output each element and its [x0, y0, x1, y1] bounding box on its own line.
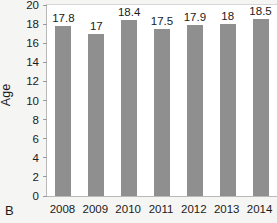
- bar-value-label: 17.5: [151, 15, 173, 27]
- y-tick: 12: [17, 75, 47, 87]
- bar-column: 17.9: [187, 5, 203, 196]
- bar: [253, 19, 269, 196]
- bar-column: 18: [220, 5, 236, 196]
- x-tick-label: 2008: [50, 203, 76, 215]
- x-tick-label: 2013: [214, 203, 240, 215]
- plot-area: 02468101214161820 17.81718.417.517.91818…: [46, 4, 277, 197]
- y-tick-label: 4: [17, 152, 43, 164]
- bar: [154, 29, 170, 196]
- y-tick: 2: [17, 171, 47, 183]
- y-tick-mark: [43, 138, 47, 139]
- bar: [220, 24, 236, 196]
- x-tick-label: 2009: [82, 203, 108, 215]
- y-tick-mark: [43, 43, 47, 44]
- y-tick-label: 12: [17, 75, 43, 87]
- y-tick-label: 8: [17, 114, 43, 126]
- bar-value-label: 17.9: [184, 11, 206, 23]
- y-tick: 0: [17, 190, 47, 202]
- bar-chart: Age B 02468101214161820 17.81718.417.517…: [0, 0, 277, 223]
- y-tick: 18: [17, 18, 47, 30]
- y-tick-mark: [43, 119, 47, 120]
- y-tick: 4: [17, 152, 47, 164]
- bar-value-label: 17: [90, 20, 103, 32]
- y-tick: 14: [17, 56, 47, 68]
- y-tick-mark: [43, 24, 47, 25]
- bar-value-label: 18: [221, 10, 234, 22]
- y-tick-label: 14: [17, 56, 43, 68]
- bar-column: 17.8: [55, 5, 71, 196]
- y-tick-mark: [43, 5, 47, 6]
- y-tick-label: 20: [17, 0, 43, 11]
- y-tick-label: 10: [17, 95, 43, 107]
- y-tick-mark: [43, 100, 47, 101]
- bar-column: 18.4: [121, 5, 137, 196]
- y-tick-label: 6: [17, 133, 43, 145]
- y-tick-mark: [43, 196, 47, 197]
- y-tick: 16: [17, 37, 47, 49]
- y-tick-mark: [43, 62, 47, 63]
- x-tick-label: 2010: [115, 203, 141, 215]
- y-tick-label: 16: [17, 37, 43, 49]
- bar-column: 18.5: [253, 5, 269, 196]
- panel-label: B: [5, 203, 14, 218]
- y-tick-mark: [43, 81, 47, 82]
- y-tick: 10: [17, 95, 47, 107]
- y-tick-mark: [43, 176, 47, 177]
- y-tick: 6: [17, 133, 47, 145]
- y-tick: 8: [17, 114, 47, 126]
- y-tick-label: 2: [17, 171, 43, 183]
- bar: [88, 34, 104, 196]
- bar-column: 17: [88, 5, 104, 196]
- bar-value-label: 18.4: [118, 6, 140, 18]
- y-tick: 20: [17, 0, 47, 11]
- y-tick-label: 0: [17, 190, 43, 202]
- x-tick-label: 2014: [247, 203, 273, 215]
- bar-value-label: 17.8: [52, 12, 74, 24]
- bar: [121, 20, 137, 196]
- bar: [55, 26, 71, 196]
- y-axis-title: Age: [0, 73, 13, 117]
- bar-column: 17.5: [154, 5, 170, 196]
- y-tick-mark: [43, 157, 47, 158]
- x-tick-label: 2011: [149, 203, 174, 215]
- y-tick-label: 18: [17, 18, 43, 30]
- bar-value-label: 18.5: [249, 5, 271, 17]
- bar: [187, 25, 203, 196]
- x-tick-label: 2012: [181, 203, 207, 215]
